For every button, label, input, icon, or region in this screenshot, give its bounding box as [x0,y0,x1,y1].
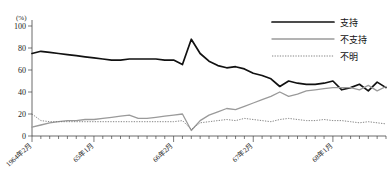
chart-container: (%)0204060801001964年2月65年1月66年2月67年2月68年… [0,0,392,186]
series-line-0 [32,39,386,91]
x-tick-label: 1964年2月 [4,141,33,169]
x-tick-label: 68年1月 [310,141,334,164]
legend-label-1: 不支持 [340,34,367,45]
legend-label-2: 不明 [340,52,358,62]
series-line-2 [32,114,386,129]
legend-label-0: 支持 [340,17,358,28]
x-tick-label: 67年2月 [230,141,254,164]
y-tick-label: 100 [14,22,26,31]
y-tick-label: 60 [18,66,26,75]
y-tick-label: 40 [18,88,26,97]
y-tick-label: 20 [18,110,26,119]
y-tick-label: 0 [22,132,26,141]
y-tick-label: 80 [18,44,26,53]
x-tick-label: 65年1月 [71,141,95,164]
x-tick-label: 66年2月 [151,141,175,164]
line-chart: (%)0204060801001964年2月65年1月66年2月67年2月68年… [0,0,392,186]
y-axis-unit-label: (%) [16,14,27,22]
series-line-1 [32,85,386,130]
